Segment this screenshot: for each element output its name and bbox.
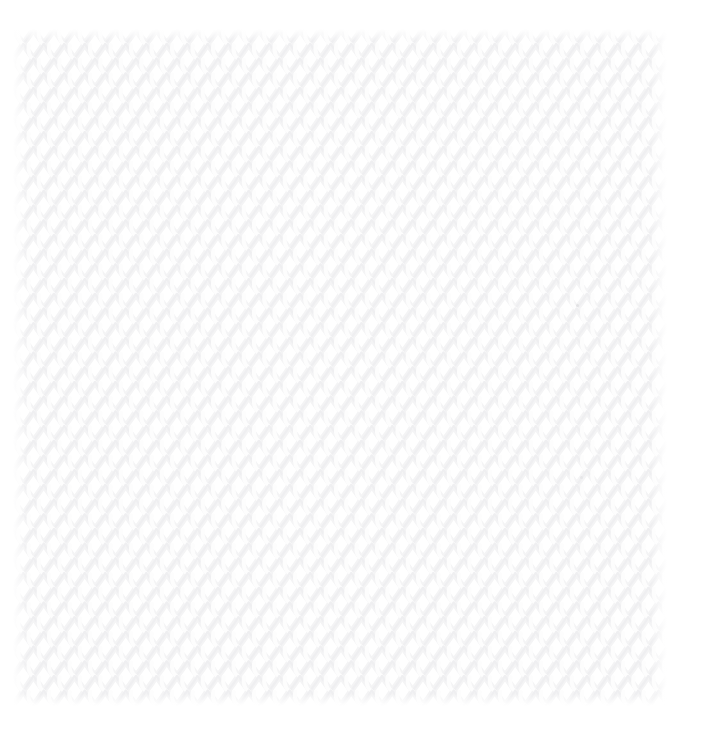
knit-fabric-swatch [13, 29, 667, 706]
knit-stitch-pattern [13, 29, 667, 706]
page-canvas [0, 0, 709, 741]
